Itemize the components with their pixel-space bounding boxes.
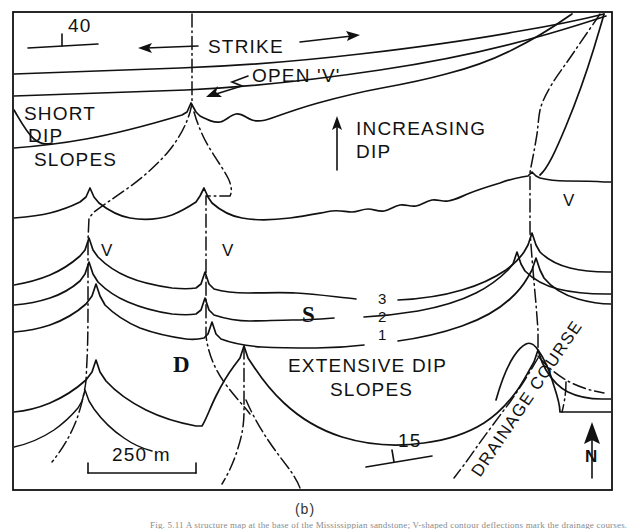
structure-low-label: S bbox=[302, 302, 315, 327]
short-dip-label-line1: SHORT bbox=[24, 103, 96, 124]
dip-value-40: 40 bbox=[68, 15, 92, 36]
north-label: N bbox=[585, 447, 598, 466]
extensive-dip-label-line2: SLOPES bbox=[330, 379, 413, 400]
increasing-dip-label-line1: INCREASING bbox=[356, 118, 486, 139]
scale-bar-label: 250 m bbox=[112, 444, 171, 465]
contour-label-3: 3 bbox=[378, 290, 388, 307]
v-mark-center: V bbox=[222, 241, 235, 260]
short-dip-label-line3: SLOPES bbox=[34, 149, 117, 170]
v-mark-left: V bbox=[101, 241, 114, 260]
contour-label-1: 1 bbox=[378, 326, 388, 343]
short-dip-label-line2: DIP bbox=[28, 125, 63, 146]
figure-caption: (b) bbox=[295, 501, 315, 517]
contour-label-2: 2 bbox=[378, 308, 388, 325]
increasing-dip-label-line2: DIP bbox=[356, 141, 391, 162]
figure-root: V V V D S 3 2 1 SHORT DIP SLOPES EXTENSI… bbox=[0, 0, 644, 529]
extensive-dip-label-line1: EXTENSIVE DIP bbox=[288, 355, 447, 376]
strike-label: STRIKE bbox=[208, 36, 284, 57]
figure-footnote: Fig. 5.11 A structure map at the base of… bbox=[150, 520, 627, 529]
dip-value-15: 15 bbox=[398, 430, 422, 451]
structure-contour-map: V V V D S 3 2 1 SHORT DIP SLOPES EXTENSI… bbox=[0, 0, 644, 529]
open-v-label: OPEN 'V' bbox=[252, 65, 341, 86]
structure-high-label: D bbox=[173, 352, 190, 377]
v-mark-right: V bbox=[563, 191, 576, 210]
